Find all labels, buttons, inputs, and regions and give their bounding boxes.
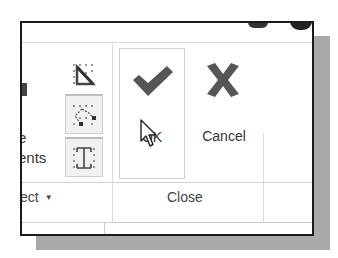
select-group-label[interactable]: ect▼ xyxy=(20,189,53,205)
cropped-icon-top xyxy=(248,21,268,28)
edit-points-icon xyxy=(66,96,102,134)
group-divider-right xyxy=(263,133,264,234)
cropped-icon-left xyxy=(22,83,27,96)
trim-corner-tool[interactable] xyxy=(65,55,103,95)
trim-corner-icon xyxy=(65,55,103,95)
dropdown-arrow-icon: ▼ xyxy=(45,193,53,202)
checkmark-icon xyxy=(131,64,175,100)
bottom-tab-edge xyxy=(104,222,314,236)
cancel-label: Cancel xyxy=(189,128,259,144)
edit-points-tool[interactable] xyxy=(65,94,103,134)
symmetry-icon xyxy=(66,139,102,177)
cropped-label-line1: e xyxy=(20,130,26,146)
cropped-label-line2: ents xyxy=(20,150,46,166)
group-divider xyxy=(112,43,113,234)
cropped-icon-top-right xyxy=(290,21,312,30)
ok-button[interactable]: OK xyxy=(119,48,185,179)
group-label-divider xyxy=(22,182,312,183)
mouse-pointer-icon xyxy=(139,119,159,149)
close-x-icon xyxy=(204,62,242,98)
symmetry-tool[interactable] xyxy=(65,137,103,177)
cancel-button[interactable]: Cancel xyxy=(189,48,259,179)
bottom-divider xyxy=(22,222,104,223)
close-group-label: Close xyxy=(167,189,203,205)
ribbon-top-divider xyxy=(22,42,312,43)
ribbon-panel: e ents OK xyxy=(20,21,314,236)
